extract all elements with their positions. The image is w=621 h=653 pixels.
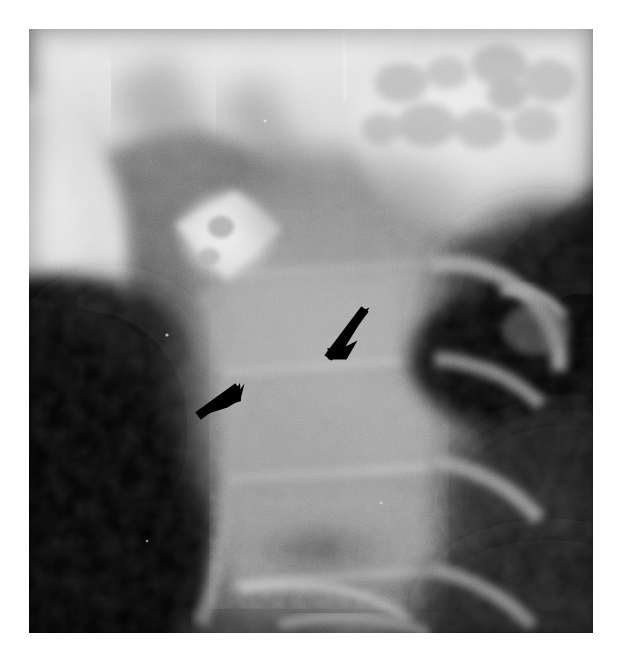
film-speckle	[29, 29, 593, 633]
radiograph-image: lateral-cervical-spine	[29, 29, 593, 633]
screenshot-root: lateral-cervical-spine	[0, 0, 621, 653]
radiograph-canvas	[29, 29, 593, 633]
